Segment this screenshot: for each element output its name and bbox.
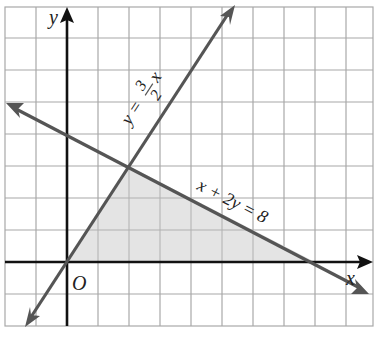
grid (5, 7, 373, 326)
graph: y x O y = 3 2 x x + 2y = 8 (0, 0, 380, 342)
arrow-down-icon (25, 307, 40, 327)
label-y-equals-three-halves-x: y = 3 2 x (110, 65, 173, 135)
svg-text:2: 2 (146, 87, 165, 103)
y-axis-label: y (47, 6, 58, 29)
x-axis-label: x (345, 267, 355, 289)
origin-label: O (72, 272, 86, 294)
